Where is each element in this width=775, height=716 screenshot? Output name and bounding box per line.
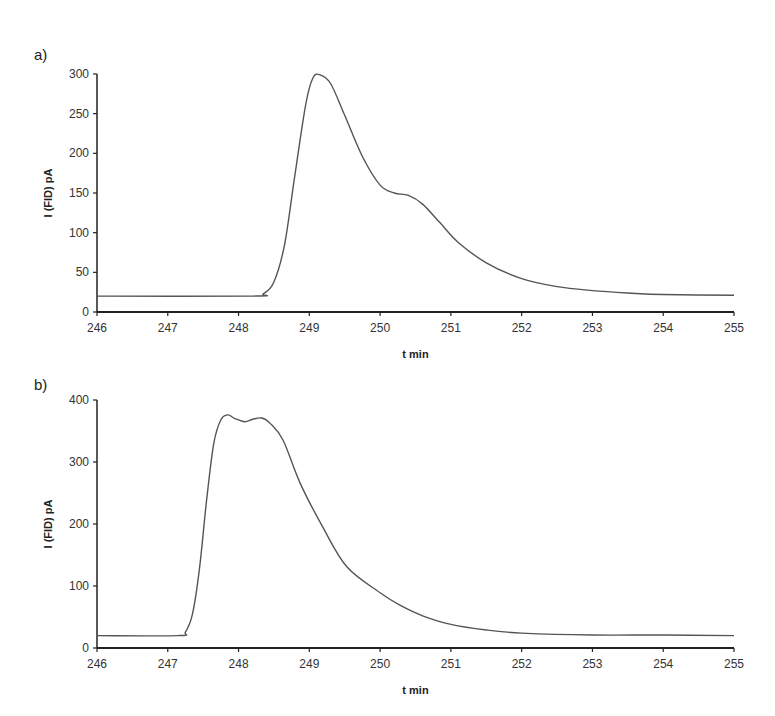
- y-tick-label: 50: [76, 265, 90, 279]
- x-tick-label: 252: [512, 321, 532, 335]
- x-tick-label: 251: [441, 657, 461, 671]
- panel-label-b: b): [34, 376, 47, 393]
- x-tick-label: 249: [299, 657, 319, 671]
- x-tick-label: 252: [512, 657, 532, 671]
- x-tick-label: 248: [229, 321, 249, 335]
- data-line: [97, 415, 734, 636]
- y-tick-label: 300: [69, 67, 89, 81]
- y-tick-label: 200: [69, 517, 89, 531]
- y-tick-label: 150: [69, 186, 89, 200]
- x-tick-label: 250: [370, 657, 390, 671]
- x-tick-label: 253: [582, 321, 602, 335]
- y-axis-title: I (FID) pA: [42, 500, 54, 549]
- x-axis-ticks: 246247248249250251252253254255: [87, 648, 744, 671]
- x-tick-label: 246: [87, 657, 107, 671]
- chart-panel-a: a) 050100150200250300 246247248249250251…: [34, 46, 744, 360]
- y-axis-ticks: 0100200300400: [69, 393, 97, 655]
- x-tick-label: 253: [582, 657, 602, 671]
- panel-label-a: a): [34, 46, 47, 63]
- x-tick-label: 250: [370, 321, 390, 335]
- y-tick-label: 0: [82, 305, 89, 319]
- x-tick-label: 247: [158, 657, 178, 671]
- x-tick-label: 246: [87, 321, 107, 335]
- y-tick-label: 300: [69, 455, 89, 469]
- x-tick-label: 251: [441, 321, 461, 335]
- figure: a) 050100150200250300 246247248249250251…: [0, 0, 775, 716]
- y-tick-label: 0: [82, 641, 89, 655]
- x-tick-label: 254: [653, 657, 673, 671]
- y-axis-title: I (FID) pA: [42, 169, 54, 218]
- x-tick-label: 249: [299, 321, 319, 335]
- x-tick-label: 247: [158, 321, 178, 335]
- x-tick-label: 255: [724, 321, 744, 335]
- y-tick-label: 400: [69, 393, 89, 407]
- y-tick-label: 200: [69, 146, 89, 160]
- x-axis-title: t min: [402, 348, 429, 360]
- x-tick-label: 255: [724, 657, 744, 671]
- y-tick-label: 250: [69, 107, 89, 121]
- x-axis-title: t min: [402, 684, 429, 696]
- x-tick-label: 248: [229, 657, 249, 671]
- data-line: [97, 74, 734, 296]
- y-axis-ticks: 050100150200250300: [69, 67, 97, 319]
- y-tick-label: 100: [69, 579, 89, 593]
- x-tick-label: 254: [653, 321, 673, 335]
- y-tick-label: 100: [69, 226, 89, 240]
- chart-panel-b: b) 0100200300400 24624724824925025125225…: [34, 376, 744, 696]
- x-axis-ticks: 246247248249250251252253254255: [87, 312, 744, 335]
